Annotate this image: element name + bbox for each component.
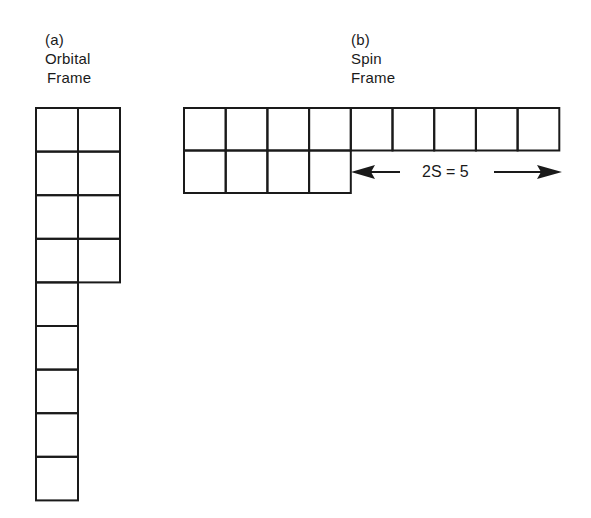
young-box: [267, 108, 309, 151]
young-box: [36, 413, 78, 457]
young-box: [36, 457, 78, 501]
young-box: [184, 151, 226, 194]
young-box: [36, 370, 78, 414]
young-box: [434, 108, 476, 151]
young-box: [226, 151, 268, 194]
young-box: [36, 282, 78, 326]
young-box: [36, 152, 78, 196]
young-box: [78, 152, 120, 196]
young-box: [518, 108, 560, 151]
orbital-frame-young-diagram: [36, 108, 120, 500]
young-box: [226, 108, 268, 151]
young-box: [184, 108, 226, 151]
young-box: [78, 239, 120, 283]
young-box: [36, 326, 78, 370]
young-box: [393, 108, 435, 151]
young-box: [309, 151, 351, 194]
young-box: [309, 108, 351, 151]
young-box: [351, 108, 393, 151]
young-box: [78, 108, 120, 152]
spin-multiplicity-annotation: 2S = 5: [420, 162, 471, 182]
young-box: [476, 108, 518, 151]
young-box: [36, 108, 78, 152]
young-box: [36, 195, 78, 239]
young-diagrams: [0, 0, 591, 518]
spin-frame-young-diagram: [184, 108, 559, 193]
young-box: [267, 151, 309, 194]
young-box: [78, 195, 120, 239]
young-box: [36, 239, 78, 283]
